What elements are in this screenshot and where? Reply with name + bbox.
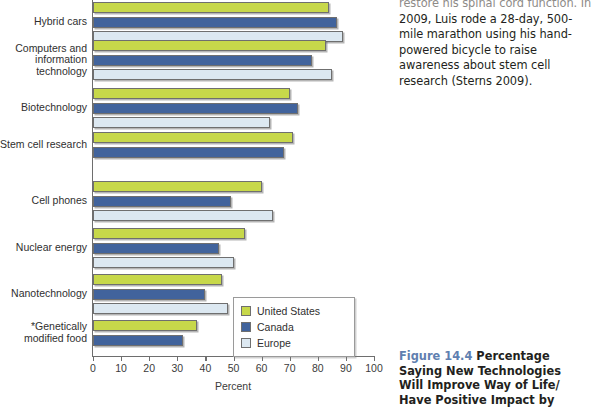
- bar-eu: [93, 69, 332, 80]
- bar-eu: [93, 257, 234, 268]
- x-tick-label-100: 100: [365, 362, 383, 374]
- bar-ca: [93, 103, 298, 114]
- bar-ca: [93, 17, 337, 28]
- category-label: Computers andinformationtechnology: [0, 43, 87, 78]
- body-paragraph: restore his spinal cord function. In2009…: [399, 0, 591, 90]
- x-tick-label-20: 20: [143, 362, 155, 374]
- category-label-line: modified food: [0, 333, 87, 345]
- right-text-column: restore his spinal cord function. In2009…: [399, 0, 591, 402]
- bar-chart-plot-area: 0102030405060708090100 Percent Hybrid ca…: [0, 0, 392, 402]
- bar-us: [93, 88, 290, 99]
- category-label: Biotechnology: [0, 102, 87, 114]
- legend-label: Canada: [257, 321, 294, 333]
- x-tick-100: [374, 356, 375, 361]
- x-axis-title: Percent: [92, 380, 374, 392]
- category-label: Cell phones: [0, 195, 87, 207]
- category-label-line: Cell phones: [0, 195, 87, 207]
- bar-ca: [93, 147, 284, 158]
- legend-swatch-icon: [241, 338, 251, 348]
- bar-us: [93, 132, 293, 143]
- x-tick-label-30: 30: [171, 362, 183, 374]
- body-clipped-first-line: restore his spinal cord function. In: [399, 0, 591, 12]
- x-tick-30: [177, 356, 178, 361]
- bar-ca: [93, 335, 183, 346]
- legend-swatch-icon: [241, 322, 251, 332]
- body-paragraph-text: 2009, Luis rode a 28-day, 500-mile marat…: [399, 12, 572, 88]
- bar-us: [93, 274, 222, 285]
- legend-label: Europe: [257, 337, 291, 349]
- legend-item: Canada: [241, 320, 294, 334]
- bar-eu: [93, 117, 270, 128]
- bar-us: [93, 228, 245, 239]
- category-label: *Stem cell research: [0, 139, 87, 151]
- x-tick-label-0: 0: [90, 362, 96, 374]
- legend-label: United States: [257, 305, 320, 317]
- x-tick-label-70: 70: [284, 362, 296, 374]
- category-label: *Geneticallymodified food: [0, 321, 87, 344]
- x-tick-label-40: 40: [200, 362, 212, 374]
- category-label: Nanotechnology: [0, 288, 87, 300]
- bar-ca: [93, 243, 219, 254]
- category-label-line: *Stem cell research: [0, 139, 87, 151]
- bar-ca: [93, 196, 231, 207]
- x-tick-label-60: 60: [256, 362, 268, 374]
- category-label-line: Biotechnology: [0, 102, 87, 114]
- bar-us: [93, 320, 197, 331]
- x-tick-40: [205, 356, 206, 361]
- x-tick-label-10: 10: [115, 362, 127, 374]
- category-label-line: Hybrid cars: [0, 16, 87, 28]
- x-tick-label-50: 50: [228, 362, 240, 374]
- bar-ca: [93, 55, 312, 66]
- figure-chart: 0102030405060708090100 Percent Hybrid ca…: [0, 0, 392, 402]
- x-tick-label-90: 90: [340, 362, 352, 374]
- category-label-line: Nanotechnology: [0, 288, 87, 300]
- category-label: Hybrid cars: [0, 16, 87, 28]
- bar-us: [93, 2, 329, 13]
- x-tick-20: [149, 356, 150, 361]
- category-label: Nuclear energy: [0, 242, 87, 254]
- x-tick-10: [121, 356, 122, 361]
- x-tick-label-80: 80: [312, 362, 324, 374]
- bar-eu: [93, 303, 228, 314]
- legend-item: Europe: [241, 336, 291, 350]
- figure-caption: Figure 14.4 Percentage Saying New Techno…: [399, 349, 589, 407]
- legend-swatch-icon: [241, 306, 251, 316]
- bar-ca: [93, 289, 205, 300]
- bar-us: [93, 181, 262, 192]
- figure-number: Figure 14.4: [399, 349, 472, 363]
- category-label-line: Nuclear energy: [0, 242, 87, 254]
- chart-legend: United StatesCanadaEurope: [233, 297, 355, 357]
- bar-us: [93, 40, 326, 51]
- legend-item: United States: [241, 304, 320, 318]
- bar-eu: [93, 210, 273, 221]
- category-label-line: technology: [0, 66, 87, 78]
- x-tick-0: [93, 356, 94, 361]
